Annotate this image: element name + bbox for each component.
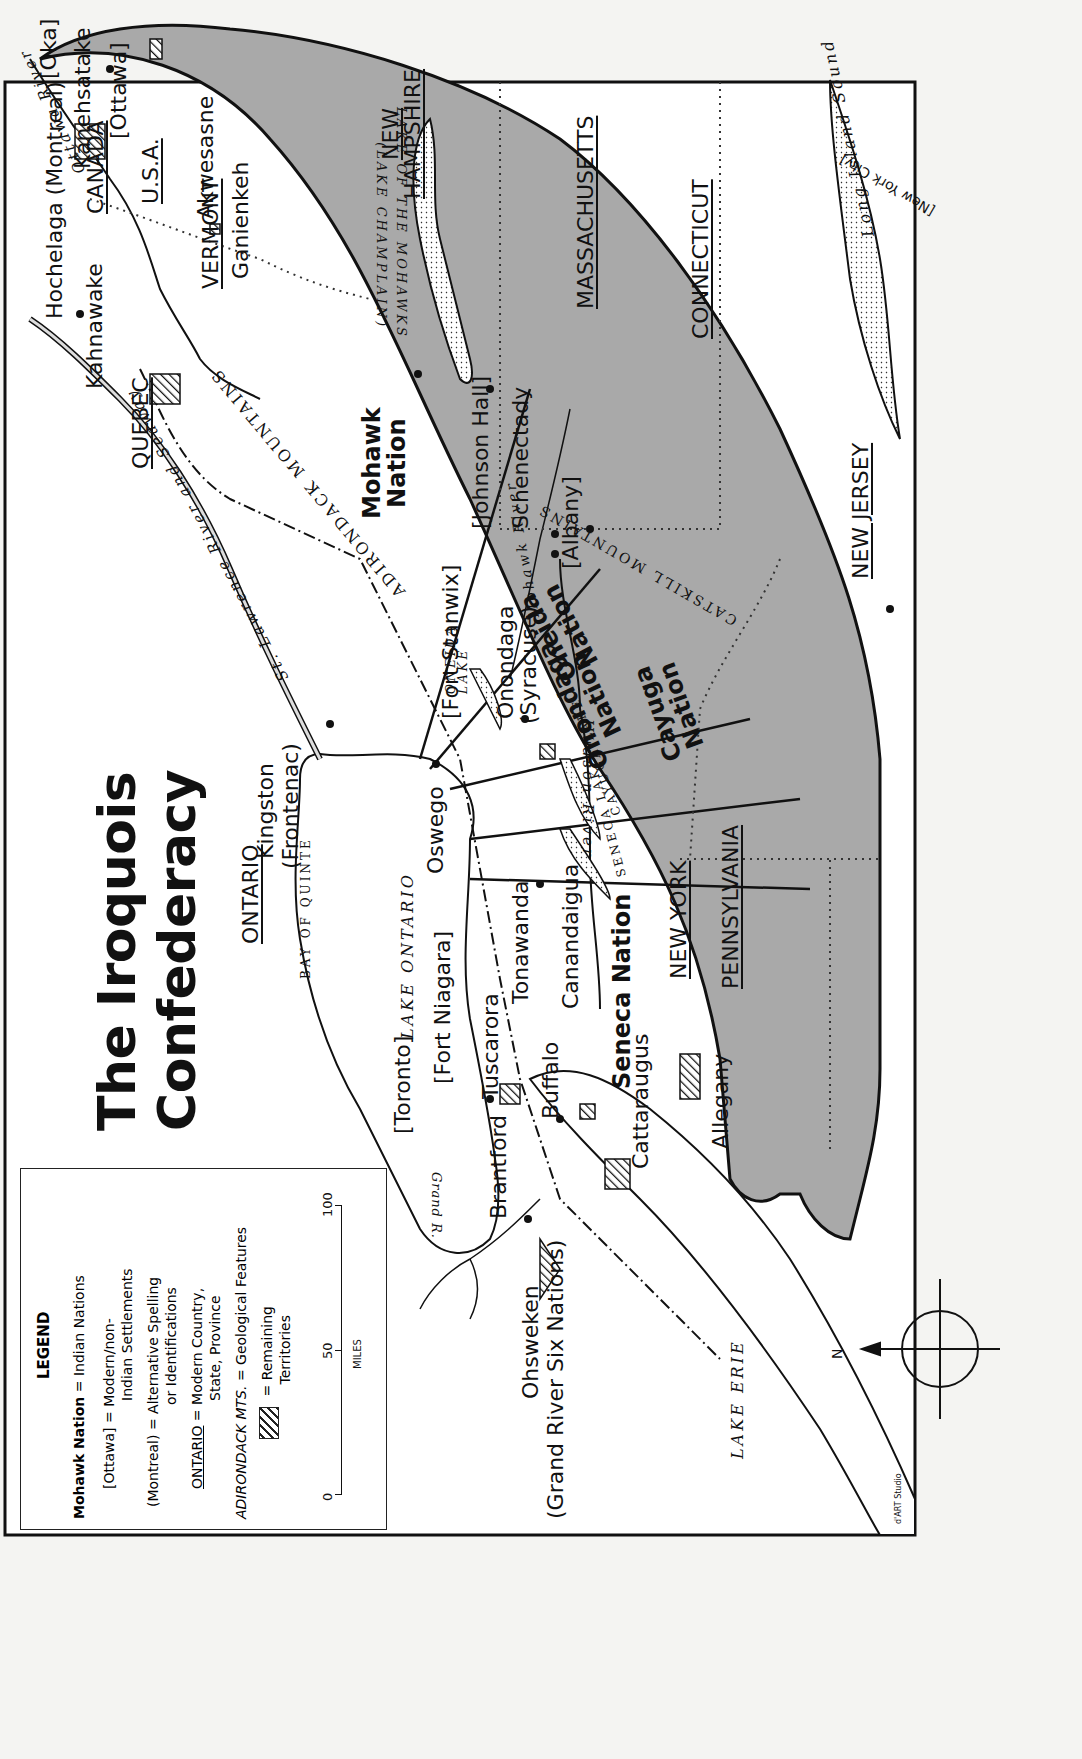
credit: d'ART Studio: [895, 1473, 903, 1524]
label-new-jersey: NEW JERSEY: [850, 443, 872, 579]
label-cattaraugus: Cattaraugus: [630, 1034, 652, 1169]
label-ohsweken: Ohsweken: [520, 1285, 542, 1399]
legend-heading: LEGEND: [35, 1312, 53, 1379]
map-canvas: The Iroquois Confederacy LEGEND Mohawk N…: [0, 0, 1082, 1759]
label-ontario: ONTARIO: [240, 844, 262, 944]
label-new-york: NEW YORK: [668, 861, 690, 979]
label-ottawa: [Ottawa]: [108, 42, 130, 139]
legend-box: LEGEND Mohawk Nation = Indian Nations [O…: [20, 1168, 387, 1530]
label-tonawanda: Tonawanda: [510, 881, 532, 1004]
label-grand-river-six-nations: (Grand River Six Nations): [545, 1240, 567, 1519]
label-fort-niagara: [Fort Niagara]: [432, 931, 454, 1084]
label-mohawk-nation: Mohawk Nation: [360, 407, 410, 519]
label-johnson-hall: [Johnson Hall]: [470, 376, 492, 529]
legend-row-geological: ADIRONDACK MTS. = Geological Features: [233, 1227, 251, 1519]
label-oneida-lake: ONEIDA LAKE: [445, 624, 469, 694]
legend-row-country: ONTARIO = Modern Country, State, Provinc…: [189, 1288, 224, 1489]
label-usa: U.S.A.: [140, 138, 162, 204]
label-bay-of-quinte: BAY OF QUINTE: [300, 837, 312, 979]
compass-north-label: N: [830, 1349, 844, 1359]
scale-bar: 0 50 100 MILES: [321, 1189, 371, 1509]
hatch-swatch-icon: [259, 1407, 279, 1439]
legend-row-settlements: [Ottawa] = Modern/non- Indian Settlement…: [101, 1268, 136, 1489]
label-kahnawake: Kahnawake: [84, 263, 106, 389]
label-buffalo: Buffalo: [540, 1042, 562, 1119]
label-syracuse: (Syracuse): [518, 606, 540, 724]
label-connecticut: CONNECTICUT: [690, 179, 712, 339]
label-lake-erie: LAKE ERIE: [730, 1339, 746, 1459]
label-ganienkeh: Ganienkeh: [230, 162, 252, 280]
scale-tick-0: 0: [321, 1493, 334, 1501]
legend-row-nations: Mohawk Nation = Indian Nations: [71, 1275, 89, 1519]
title-line-1: The Iroquois: [88, 770, 148, 1131]
label-canandaigua: Canandaigua: [560, 864, 582, 1009]
scale-tick-50: 50: [321, 1342, 334, 1359]
label-tuscarora: Tuscarora: [480, 993, 502, 1099]
title-line-2: Confederacy: [148, 770, 208, 1131]
label-massachusetts: MASSACHUSETTS: [575, 116, 597, 309]
label-grand-river: Grand R.: [430, 1172, 443, 1239]
label-pennsylvania: PENNSYLVANIA: [720, 825, 742, 989]
label-vermont: VERMONT: [200, 179, 222, 289]
label-oswego: Oswego: [425, 786, 447, 874]
map-title: The Iroquois Confederacy: [88, 770, 208, 1131]
label-lake-champlain-2: (LAKE CHAMPLAIN): [375, 142, 388, 329]
label-brantford: Brantford: [488, 1115, 510, 1219]
legend-row-alternative: (Montreal) = Alternative Spelling or Ide…: [145, 1277, 180, 1507]
label-lake-ontario: LAKE ONTARIO: [400, 872, 416, 1039]
scale-tick-100: 100: [321, 1192, 334, 1217]
scale-unit: MILES: [353, 1339, 363, 1369]
label-onondaga: Onondaga: [495, 605, 517, 719]
legend-row-territories: = Remaining Territories: [259, 1306, 294, 1439]
label-allegany: Allegany: [710, 1054, 732, 1149]
label-toronto: [Toronto]: [392, 1036, 414, 1134]
label-lake-champlain-1: LAKE OF THE MOHAWKS: [395, 107, 408, 339]
